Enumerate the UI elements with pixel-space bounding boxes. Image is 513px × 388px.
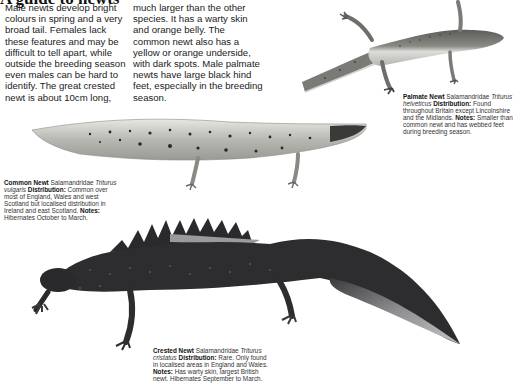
intro-paragraph-1: Male newts develop bright colours in spr… bbox=[5, 2, 127, 103]
distribution-label: Distribution: bbox=[28, 186, 66, 193]
palmate-newt-illustration bbox=[300, 0, 508, 98]
species-name: Crested Newt bbox=[153, 347, 194, 354]
intro-paragraph-2: much larger than the other species. It h… bbox=[133, 2, 263, 103]
distribution-label: Distribution: bbox=[179, 354, 217, 361]
species-family: Salamandridae bbox=[51, 179, 94, 186]
crested-newt-illustration bbox=[30, 212, 470, 352]
notes-label: Notes: bbox=[153, 368, 173, 375]
palmate-newt-caption: Palmate Newt Salamandridae Triturus helv… bbox=[403, 93, 513, 136]
species-family: Salamandridae bbox=[196, 347, 239, 354]
crested-newt-caption: Crested Newt Salamandridae Triturus cris… bbox=[153, 347, 271, 382]
species-family: Salamandridae bbox=[446, 93, 489, 100]
notes-label: Notes: bbox=[455, 114, 475, 121]
species-name: Palmate Newt bbox=[403, 93, 445, 100]
species-name: Common Newt bbox=[4, 179, 49, 186]
distribution-label: Distribution: bbox=[433, 100, 471, 107]
